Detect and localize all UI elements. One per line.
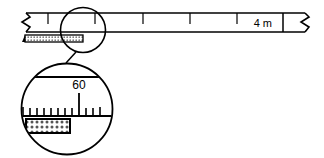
specimen-bar-body xyxy=(25,35,83,42)
right-break-symbol xyxy=(301,13,309,32)
detail-specimen-bar xyxy=(26,119,70,133)
hatched-specimen-bar xyxy=(22,35,83,42)
callout-detail-circle: 60 xyxy=(20,62,116,158)
ruler-tick-group xyxy=(48,13,237,24)
diagram-canvas: 4 m xyxy=(0,0,324,158)
left-break-symbol xyxy=(22,13,30,32)
ruler-detail-diagram: 4 m xyxy=(0,0,324,158)
callout-source-circle xyxy=(61,8,106,53)
detail-reading-label: 60 xyxy=(72,78,86,92)
callout-leader-line xyxy=(66,52,76,63)
length-label: 4 m xyxy=(254,17,272,29)
